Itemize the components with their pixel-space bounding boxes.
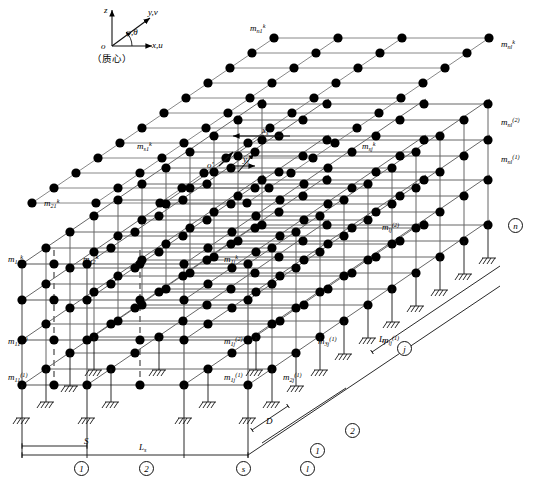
marker-n-depth: n <box>508 218 523 233</box>
center-of-mass-note: （质心） <box>92 54 132 64</box>
mass-label-m-1j-k: m1jk <box>224 255 238 264</box>
local-axis-x-label: xsk <box>262 126 271 135</box>
marker-1-depth: 1 <box>310 443 325 458</box>
local-axis-y-label: yjk <box>243 155 251 164</box>
figure-canvas: z y,v x,u φ,θ o （质心） o' xsk yjk mn1kmnlk… <box>0 0 533 488</box>
mass-label-m-11-k: m11k <box>8 255 23 264</box>
mass-label-m-12-k: m12k <box>83 255 98 264</box>
mass-label-m-nl-k: mnlk <box>501 40 515 49</box>
diagram-svg <box>0 0 533 488</box>
marker-2-depth: 2 <box>345 423 360 438</box>
marker-l-bottom: l <box>300 461 315 476</box>
local-origin-label: o' <box>207 161 213 170</box>
mass-label-m-nl-2: mnl(2) <box>501 118 520 127</box>
mass-label-m-21-k: m21k <box>44 199 59 208</box>
mass-label-m-11-1: m11(1) <box>8 373 27 382</box>
origin-label-o: o <box>101 42 106 51</box>
dimension-label-dim-Lj: Lj <box>379 335 386 344</box>
axis-label-y-v: y,v <box>148 8 158 17</box>
mass-label-m-2j-1: m2j(1) <box>283 373 302 382</box>
marker-j-depth: j <box>397 341 412 356</box>
mass-label-m-nl-1: mnl(1) <box>501 155 520 164</box>
mass-label-m-n1-k: mn1k <box>250 24 265 33</box>
marker-2-bottom: 2 <box>139 461 154 476</box>
axis-label-x-u: x,u <box>152 41 163 50</box>
axis-label-z: z <box>104 6 108 15</box>
mass-label-m-s1-k: ms1k <box>137 142 152 151</box>
mass-label-m-lj-2: mlj(2) <box>382 223 399 232</box>
dimension-label-dim-D: D <box>266 417 273 426</box>
marker-1-bottom: 1 <box>74 461 89 476</box>
mass-label-m-11-2: m11(2) <box>8 337 27 346</box>
dimension-label-dim-Ls: Ls <box>139 443 146 452</box>
angle-label-phi-theta: φ,θ <box>126 28 138 37</box>
dimension-label-dim-S: S <box>84 437 89 446</box>
mass-label-m-1j-2: m1j(2) <box>224 337 243 346</box>
mass-label-m-sj-k: msjk <box>362 142 375 151</box>
marker-s-bottom: s <box>236 461 251 476</box>
mass-label-m-3j-1: m3j(1) <box>318 337 337 346</box>
mass-label-m-1j-1: m1j(1) <box>224 373 243 382</box>
